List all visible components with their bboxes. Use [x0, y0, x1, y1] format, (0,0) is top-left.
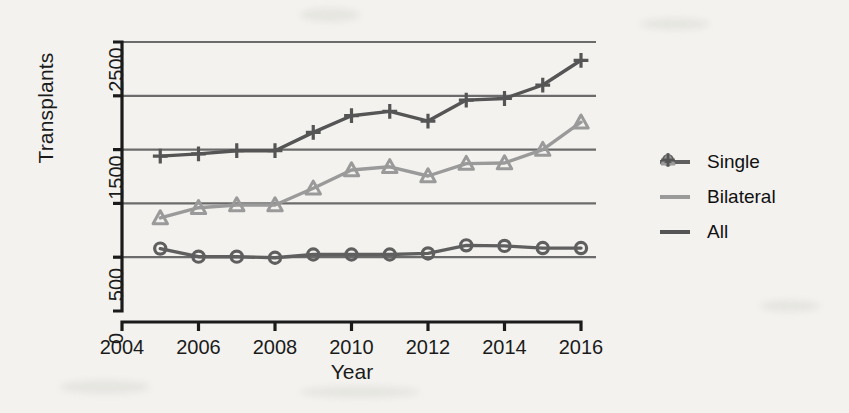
legend-line-swatch — [660, 195, 690, 199]
legend-label: Bilateral — [707, 186, 776, 208]
data-point-plus-icon — [497, 91, 512, 106]
x-tick-label: 2016 — [559, 336, 604, 359]
x-tick-label: 2012 — [406, 336, 451, 359]
legend-item-bilateral[interactable]: Bilateral — [660, 187, 776, 207]
x-tick-label: 2006 — [176, 336, 221, 359]
plus-icon — [688, 224, 704, 240]
data-point-plus-icon — [344, 108, 359, 123]
data-point-plus-icon — [382, 104, 397, 119]
legend-label: All — [707, 221, 728, 243]
x-tick-label: 2004 — [100, 336, 145, 359]
series-line-single — [160, 245, 581, 257]
series-line-all — [160, 60, 581, 156]
data-point-plus-icon — [421, 114, 436, 129]
chart-figure: Transplants Year 050015002500 2004200620… — [0, 0, 849, 413]
x-tick-label: 2010 — [329, 336, 374, 359]
data-point-plus-icon — [153, 149, 168, 164]
y-axis-title: Transplants — [34, 18, 58, 198]
x-axis-title: Year — [122, 360, 582, 384]
data-point-plus-icon — [306, 125, 321, 140]
data-point-plus-icon — [229, 143, 244, 158]
chart-legend: SingleBilateralAll — [660, 152, 776, 242]
circle-icon — [688, 154, 704, 170]
legend-item-single[interactable]: Single — [660, 152, 776, 172]
legend-label: Single — [707, 151, 760, 173]
x-tick-label: 2008 — [253, 336, 298, 359]
y-tick-label: 1500 — [105, 149, 128, 205]
x-tick-label: 2014 — [482, 336, 527, 359]
triangle-icon — [688, 189, 704, 205]
y-tick-label: 2500 — [105, 42, 128, 98]
legend-item-all[interactable]: All — [660, 222, 776, 242]
legend-line-swatch — [660, 230, 690, 234]
data-point-plus-icon — [268, 143, 283, 158]
y-tick-label: 500 — [105, 257, 128, 313]
